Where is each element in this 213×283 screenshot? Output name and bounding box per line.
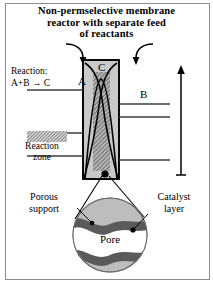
- porous-support-label: Porous support: [6, 191, 82, 214]
- species-label-a: A: [78, 76, 86, 87]
- feed-arrow-right: [136, 44, 153, 58]
- concentrations-axis-label-wrap: Concentrations: [196, 68, 210, 178]
- species-label-c: C: [98, 62, 105, 73]
- reaction-zone-region: [93, 72, 110, 171]
- concentration-axis-arrowhead: [177, 65, 185, 74]
- concentration-axis: [176, 73, 186, 175]
- species-label-b: B: [140, 89, 147, 100]
- tick-lines-right: [119, 104, 170, 160]
- feed-arrow-right-head: [133, 57, 140, 65]
- catalyst-layer-label: Catalyst layer: [139, 191, 209, 214]
- pore-label: Pore: [82, 234, 138, 245]
- reaction-zone-label: Reaction zone: [6, 141, 78, 163]
- feed-arrow-left: [66, 44, 83, 58]
- reaction-equation: A+B → C: [11, 78, 50, 89]
- figure-root: Non-permselective membrane reactor with …: [0, 0, 213, 283]
- reaction-label: Reaction:: [11, 66, 47, 77]
- callout-origin-dot: [101, 170, 108, 177]
